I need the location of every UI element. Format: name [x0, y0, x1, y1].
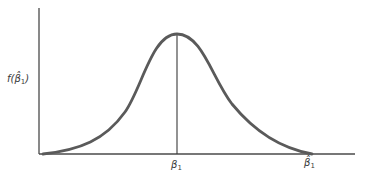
- density-diagram: [0, 0, 366, 180]
- x-label-beta1-hat: β̂1: [304, 157, 315, 170]
- x-label-beta1: β1: [171, 159, 182, 172]
- y-axis-label: f(β̂1): [7, 73, 29, 86]
